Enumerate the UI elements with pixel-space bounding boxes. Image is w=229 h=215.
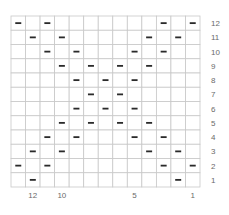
- grid-cell: [171, 116, 186, 130]
- purl-mark: [117, 93, 123, 95]
- grid-cell: [113, 73, 128, 87]
- grid-cell: [185, 45, 200, 59]
- grid-cell: [26, 102, 41, 116]
- grid-cell: [84, 16, 99, 30]
- grid-cell: [69, 144, 84, 158]
- grid-cell: [69, 16, 84, 30]
- purl-mark: [175, 36, 181, 38]
- grid-cell: [142, 16, 157, 30]
- purl-mark: [146, 36, 152, 38]
- row-label: 1: [211, 176, 216, 185]
- grid-cell: [11, 130, 26, 144]
- grid-cell: [127, 116, 142, 130]
- grid-cell: [171, 45, 186, 59]
- grid-cell: [40, 173, 55, 187]
- purl-mark: [15, 165, 21, 167]
- grid-cell: [113, 102, 128, 116]
- grid-cell: [84, 144, 99, 158]
- grid-cell: [171, 159, 186, 173]
- grid-cell: [11, 173, 26, 187]
- purl-mark: [73, 108, 79, 110]
- purl-mark: [30, 36, 36, 38]
- grid-cell: [40, 73, 55, 87]
- grid-cell: [98, 45, 113, 59]
- grid-cell: [185, 59, 200, 73]
- grid-cell: [26, 116, 41, 130]
- grid-cell: [26, 59, 41, 73]
- row-label: 10: [211, 48, 220, 57]
- purl-mark: [30, 150, 36, 152]
- grid-cell: [127, 87, 142, 101]
- grid-cell: [69, 159, 84, 173]
- grid-cell: [11, 59, 26, 73]
- grid-cell: [171, 73, 186, 87]
- grid-cell: [156, 87, 171, 101]
- grid-cell: [98, 116, 113, 130]
- grid-cell: [127, 144, 142, 158]
- purl-mark: [132, 51, 138, 53]
- grid-cell: [185, 73, 200, 87]
- grid-cell: [185, 130, 200, 144]
- grid-cell: [113, 45, 128, 59]
- grid-cell: [69, 116, 84, 130]
- grid-cell: [171, 16, 186, 30]
- column-label: 10: [57, 191, 66, 200]
- grid-cell: [127, 59, 142, 73]
- grid-cell: [55, 173, 70, 187]
- grid-cell: [26, 130, 41, 144]
- purl-mark: [73, 79, 79, 81]
- grid-cell: [171, 102, 186, 116]
- grid-cell: [69, 87, 84, 101]
- grid-cell: [40, 116, 55, 130]
- grid-cell: [55, 45, 70, 59]
- grid-cell: [98, 16, 113, 30]
- purl-mark: [146, 150, 152, 152]
- grid-cell: [55, 159, 70, 173]
- purl-mark: [132, 108, 138, 110]
- purl-mark: [161, 22, 167, 24]
- grid-cell: [156, 102, 171, 116]
- purl-mark: [30, 179, 36, 181]
- grid-cell: [127, 30, 142, 44]
- stitch-chart: 121110987654321121051: [0, 0, 229, 215]
- grid-cell: [142, 45, 157, 59]
- grid-cell: [84, 30, 99, 44]
- purl-mark: [103, 108, 109, 110]
- purl-mark: [73, 136, 79, 138]
- grid-cell: [55, 87, 70, 101]
- grid-cell: [69, 30, 84, 44]
- row-label: 9: [211, 62, 216, 71]
- row-label: 2: [211, 162, 216, 171]
- purl-mark: [44, 22, 50, 24]
- purl-mark: [190, 165, 196, 167]
- grid-cell: [142, 159, 157, 173]
- grid-cell: [156, 73, 171, 87]
- grid-cell: [11, 144, 26, 158]
- grid-cell: [113, 173, 128, 187]
- grid-cell: [26, 159, 41, 173]
- grid-cell: [156, 144, 171, 158]
- grid-cell: [156, 116, 171, 130]
- purl-mark: [117, 65, 123, 67]
- grid-cell: [40, 87, 55, 101]
- grid-cell: [185, 144, 200, 158]
- grid-cell: [40, 102, 55, 116]
- purl-mark: [132, 136, 138, 138]
- purl-mark: [88, 65, 94, 67]
- grid-cell: [113, 144, 128, 158]
- grid-cell: [11, 73, 26, 87]
- column-label: 1: [191, 191, 196, 200]
- row-label: 8: [211, 76, 216, 85]
- purl-mark: [59, 122, 65, 124]
- grid-cell: [84, 173, 99, 187]
- grid-cell: [98, 159, 113, 173]
- row-label: 3: [211, 147, 216, 156]
- row-label: 6: [211, 105, 216, 114]
- grid-cell: [113, 30, 128, 44]
- grid-cell: [26, 87, 41, 101]
- grid-cell: [142, 130, 157, 144]
- grid-cell: [40, 144, 55, 158]
- purl-mark: [190, 22, 196, 24]
- grid-cell: [11, 30, 26, 44]
- grid-cell: [185, 87, 200, 101]
